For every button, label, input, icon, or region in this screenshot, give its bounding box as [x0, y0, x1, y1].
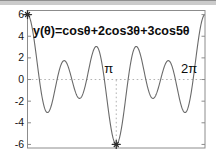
y-tick-label: 4	[18, 30, 24, 42]
y-tick-label: -6	[15, 138, 24, 150]
y-tick-label: 2	[18, 51, 24, 63]
y-tick-label: -2	[15, 95, 24, 107]
axis-annotation: π	[104, 61, 113, 76]
chart-title: y(θ)=cosθ+2cos3θ+3cos5θ	[33, 24, 190, 38]
figure-window: -6-4-20246π2π y(θ)=cosθ+2cos3θ+3cos5θ	[0, 0, 216, 158]
asterisk-marker	[24, 11, 32, 19]
asterisk-marker	[112, 140, 120, 148]
axis-annotation: 2π	[181, 61, 197, 76]
y-tick-label: 0	[18, 73, 24, 85]
y-tick-label: -4	[15, 116, 24, 128]
